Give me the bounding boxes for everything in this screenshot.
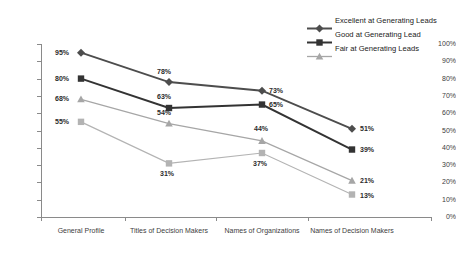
legend-diamond-icon [307, 19, 332, 26]
data-point-label: 65% [269, 101, 283, 109]
data-point-label: 73% [269, 87, 283, 95]
data-point-label: 68% [55, 95, 69, 103]
data-point-label: 13% [360, 192, 374, 200]
data-point-label: 78% [157, 68, 171, 76]
legend-item[interactable]: Fair at Generating Leads [307, 44, 453, 55]
data-point-label: 37% [253, 160, 267, 168]
legend-triangle-icon [307, 47, 332, 54]
data-point-label: 44% [254, 125, 268, 133]
legend-item-label: Good at Generating Lead [335, 30, 453, 40]
data-point-label: 63% [157, 93, 171, 101]
data-point-label: 21% [360, 177, 374, 185]
legend-item-label: Fair at Generating Leads [335, 44, 453, 54]
data-point-label: 39% [360, 146, 374, 154]
data-point-label: 51% [360, 125, 374, 133]
data-point-label: 55% [55, 118, 69, 126]
data-point-label: 80% [55, 75, 69, 83]
line-chart: 0%10%20%30%40%50%60%70%80%90%100% Genera… [0, 0, 456, 256]
data-point-label: 95% [55, 49, 69, 57]
data-point-label: 54% [157, 109, 171, 117]
legend-item[interactable]: Excellent at Generating Leads [307, 16, 453, 27]
chart-legend: Excellent at Generating LeadsGood at Gen… [307, 16, 453, 58]
legend-item[interactable]: Good at Generating Lead [307, 30, 453, 41]
data-point-label: 31% [160, 170, 174, 178]
legend-item-label: Excellent at Generating Leads [335, 16, 453, 26]
legend-square-icon [307, 33, 332, 40]
